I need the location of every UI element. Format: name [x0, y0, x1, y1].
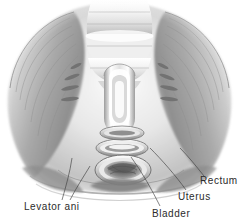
pelvic-floor-figure: Levator ani Bladder Uterus Rectum — [0, 0, 239, 220]
figure-vignette — [0, 0, 239, 220]
label-bladder: Bladder — [152, 209, 190, 219]
anatomy-illustration-svg — [0, 0, 239, 220]
label-uterus: Uterus — [178, 192, 211, 202]
label-levator-ani: Levator ani — [24, 202, 80, 212]
label-rectum: Rectum — [200, 176, 238, 186]
